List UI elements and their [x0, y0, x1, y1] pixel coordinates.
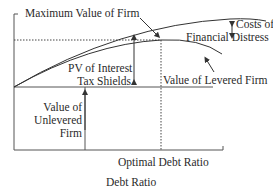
unlevered-label-1: Value of	[20, 101, 82, 114]
costs-distress-label-2: Financial Distress	[186, 31, 269, 44]
levered-value-label: Value of Levered Firm	[163, 74, 267, 87]
max-value-label: Maximum Value of Firm	[25, 7, 139, 20]
pv-tax-label-1: PV of Interest	[68, 62, 131, 75]
unlevered-label-3: Firm	[20, 127, 82, 140]
max-value-pointer	[140, 18, 158, 36]
costs-distress-label-1: Costs of	[236, 18, 273, 31]
pv-tax-label-2: Tax Shields	[68, 75, 131, 88]
levered-pointer	[206, 59, 214, 72]
unlevered-label-2: Unlevered	[20, 114, 82, 127]
optimal-debt-label: Optimal Debt Ratio	[118, 156, 209, 169]
x-axis-label: Debt Ratio	[106, 176, 156, 189]
